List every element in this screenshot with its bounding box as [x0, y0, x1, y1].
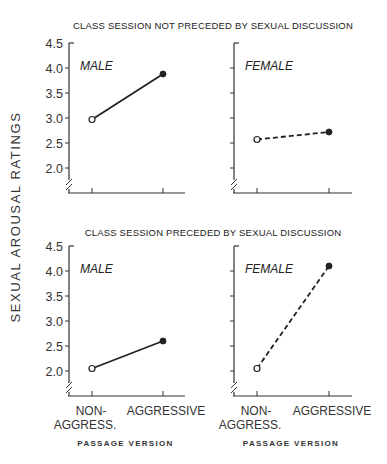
series-line	[92, 74, 163, 120]
x-category-label: AGGRESS.	[54, 418, 117, 432]
y-tick-label: 3.5	[46, 87, 63, 101]
x-axis-label: PASSAGE VERSION	[77, 439, 173, 448]
x-category-label: AGGRESSIVE	[293, 404, 372, 418]
series-line	[257, 132, 329, 140]
data-point-non-aggressive	[89, 117, 95, 123]
panels: 4.54.03.53.02.52.0MALEFEMALE4.54.03.53.0…	[46, 37, 372, 449]
y-tick-label: 4.0	[46, 62, 63, 76]
data-point-aggressive	[160, 71, 166, 77]
x-category-label: NON-	[241, 404, 272, 418]
y-tick-label: 3.5	[46, 290, 63, 304]
panel-label: MALE	[80, 262, 114, 276]
y-tick-label: 2.5	[46, 340, 63, 354]
top-row-title: CLASS SESSION NOT PRECEDED BY SEXUAL DIS…	[73, 20, 353, 31]
series-line	[92, 341, 163, 369]
data-point-aggressive	[326, 263, 332, 269]
y-axis-label: SEXUAL AROUSAL RATINGS	[8, 112, 23, 323]
panel-label: FEMALE	[245, 262, 294, 276]
series-line	[257, 266, 329, 369]
y-tick-label: 4.5	[46, 240, 63, 254]
data-point-non-aggressive	[89, 366, 95, 372]
x-axis-label: PASSAGE VERSION	[243, 439, 339, 448]
x-category-label: AGGRESS.	[219, 418, 282, 432]
panel-label: MALE	[80, 59, 114, 73]
y-tick-label: 4.5	[46, 37, 63, 51]
y-tick-label: 4.0	[46, 265, 63, 279]
x-category-label: NON-	[76, 404, 107, 418]
y-tick-label: 2.5	[46, 137, 63, 151]
panel-female-bottom: FEMALENON-AGGRESS.AGGRESSIVEPASSAGE VERS…	[219, 246, 372, 448]
panel-male-bottom: 4.54.03.53.02.52.0MALENON-AGGRESS.AGGRES…	[46, 240, 206, 449]
data-point-aggressive	[160, 338, 166, 344]
panel-label: FEMALE	[245, 59, 294, 73]
panel-female-top: FEMALE	[230, 43, 352, 193]
y-tick-label: 3.0	[46, 315, 63, 329]
x-category-label: AGGRESSIVE	[127, 404, 206, 418]
y-tick-label: 2.0	[46, 365, 63, 379]
panel-male-top: 4.54.03.53.02.52.0MALE	[46, 37, 185, 194]
y-tick-label: 2.0	[46, 162, 63, 176]
y-tick-label: 3.0	[46, 112, 63, 126]
data-point-non-aggressive	[254, 137, 260, 143]
bottom-row-title: CLASS SESSION PRECEDED BY SEXUAL DISCUSS…	[85, 227, 342, 238]
data-point-non-aggressive	[254, 366, 260, 372]
data-point-aggressive	[326, 129, 332, 135]
figure: CLASS SESSION NOT PRECEDED BY SEXUAL DIS…	[0, 0, 387, 464]
